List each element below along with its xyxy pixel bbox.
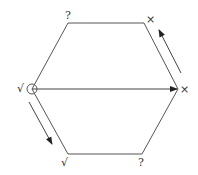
label-top-right: × bbox=[146, 14, 155, 25]
label-top-left: ? bbox=[65, 10, 71, 21]
lower-left-arrow bbox=[29, 102, 52, 144]
label-left: √ bbox=[17, 83, 24, 94]
hexagon-diagram bbox=[0, 0, 198, 175]
label-bottom-right: ? bbox=[138, 157, 144, 168]
upper-right-arrow bbox=[159, 30, 181, 73]
label-right: × bbox=[180, 84, 189, 95]
label-bottom-left: √ bbox=[61, 157, 68, 168]
